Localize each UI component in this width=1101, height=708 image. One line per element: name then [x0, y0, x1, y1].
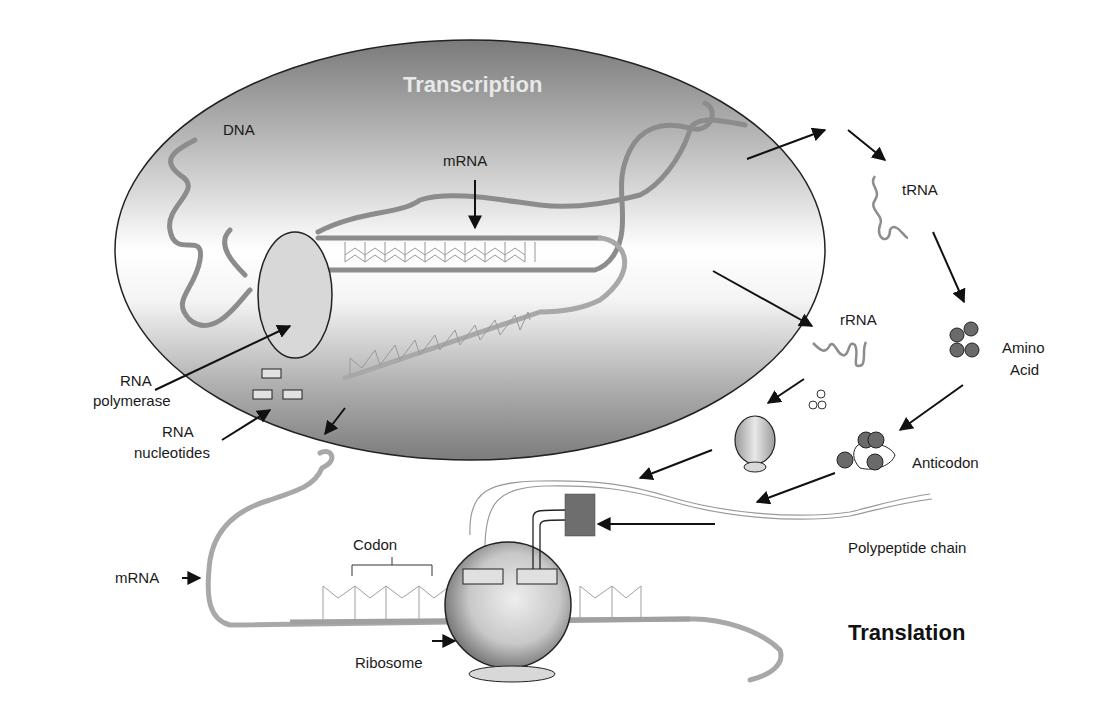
arrow-anticodon-to-translation	[757, 473, 835, 502]
label-mrna-top: mRNA	[443, 152, 487, 169]
ribosome-site-a	[517, 569, 557, 584]
amino-acid-cluster	[950, 322, 979, 357]
label-rna-nucleotides-1: RNA	[162, 423, 194, 440]
arrow-to-trna	[848, 130, 885, 160]
label-amino-acid-1: Amino	[1002, 339, 1045, 356]
arrow-to-small-ribosome	[768, 379, 804, 403]
polypeptide-chain	[470, 481, 930, 535]
ribosome-base	[469, 666, 555, 682]
ribosome-unassembled-base	[744, 462, 766, 472]
label-polypeptide-chain: Polypeptide chain	[848, 539, 966, 556]
ribosome-subunits-small	[809, 390, 826, 409]
peptide-block	[565, 494, 595, 536]
label-ribosome: Ribosome	[355, 654, 423, 671]
diagram-canvas: Transcription DNA mRNA RNA polymerase RN…	[0, 0, 1101, 708]
label-rna-polymerase-1: RNA	[120, 372, 152, 389]
translation-title: Translation	[848, 620, 965, 645]
ribosome-site-p	[463, 569, 503, 584]
ribosome	[445, 542, 571, 668]
arrow-to-amino-acid	[933, 232, 964, 302]
label-mrna-bottom: mRNA	[115, 569, 159, 586]
rrna-strand	[813, 342, 866, 366]
arrow-rna-nucleotides	[222, 410, 270, 440]
arrow-to-anticodon	[900, 385, 963, 430]
transcription-title: Transcription	[403, 72, 542, 97]
ribosome-unassembled	[735, 416, 775, 464]
label-trna: tRNA	[902, 181, 938, 198]
label-rna-nucleotides-2: nucleotides	[134, 444, 210, 461]
rna-polymerase	[258, 232, 332, 358]
label-rna-polymerase-2: polymerase	[93, 392, 171, 409]
label-dna: DNA	[223, 121, 255, 138]
anticodon-complex	[837, 432, 895, 470]
arrow-ribosome-to-translation	[640, 450, 712, 478]
codon-bracket	[352, 557, 432, 576]
nucleus	[115, 40, 825, 460]
label-codon: Codon	[353, 536, 397, 553]
label-rrna: rRNA	[840, 311, 877, 328]
label-anticodon: Anticodon	[912, 454, 979, 471]
label-amino-acid-2: Acid	[1010, 361, 1039, 378]
